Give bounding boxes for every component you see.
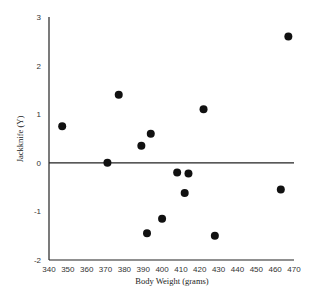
data-point <box>103 159 111 167</box>
x-tick-label: 400 <box>155 265 169 274</box>
x-tick-label: 430 <box>212 265 226 274</box>
x-tick-label: 350 <box>61 265 75 274</box>
x-tick-label: 370 <box>99 265 113 274</box>
y-axis-label: Jackknife (Y) <box>15 116 25 163</box>
x-tick-label: 360 <box>80 265 94 274</box>
data-point <box>143 229 151 237</box>
data-point <box>284 32 292 40</box>
x-tick-label: 470 <box>287 265 301 274</box>
x-tick-label: 450 <box>250 265 264 274</box>
data-point <box>211 232 219 240</box>
x-tick-label: 460 <box>268 265 282 274</box>
data-point <box>158 215 166 223</box>
data-point <box>137 142 145 150</box>
x-axis-label: Body Weight (grams) <box>135 276 208 286</box>
y-tick-label: -2 <box>34 256 42 265</box>
data-points <box>58 32 292 239</box>
data-point <box>277 186 285 194</box>
data-point <box>200 105 208 113</box>
data-point <box>181 189 189 197</box>
x-tick-label: 440 <box>231 265 245 274</box>
y-tick-label: 2 <box>37 62 42 71</box>
x-tick-label: 390 <box>137 265 151 274</box>
x-tick-label: 420 <box>193 265 207 274</box>
data-point <box>184 169 192 177</box>
y-tick-label: 0 <box>37 159 42 168</box>
data-point <box>115 91 123 99</box>
axes: -2-1012334035036037038039040041042043044… <box>34 13 301 274</box>
data-point <box>58 122 66 130</box>
x-tick-label: 340 <box>42 265 56 274</box>
y-tick-label: -1 <box>34 207 42 216</box>
data-point <box>147 130 155 138</box>
scatter-chart: -2-1012334035036037038039040041042043044… <box>0 0 313 300</box>
x-tick-label: 380 <box>118 265 132 274</box>
data-point <box>173 169 181 177</box>
y-tick-label: 3 <box>37 13 42 22</box>
y-tick-label: 1 <box>37 110 42 119</box>
x-tick-label: 410 <box>174 265 188 274</box>
